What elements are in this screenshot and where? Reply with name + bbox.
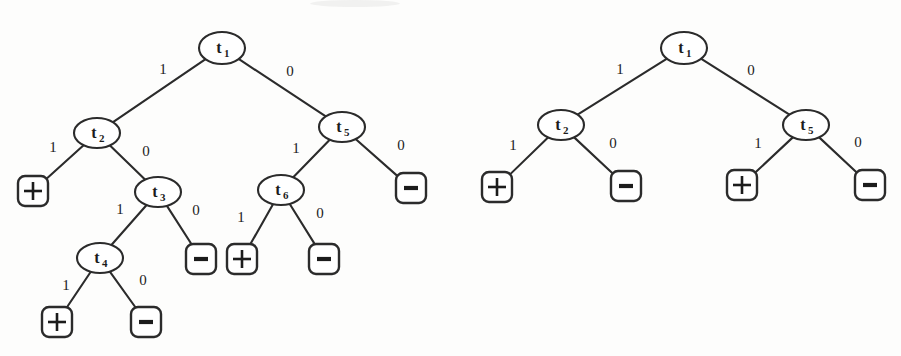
edge-label-1: 1 bbox=[159, 61, 167, 77]
node-subscript: 1 bbox=[686, 47, 692, 59]
node-label: t bbox=[275, 181, 281, 198]
edge-label-1: 1 bbox=[509, 137, 517, 153]
tree-node-t2[interactable]: t2 bbox=[538, 110, 584, 140]
node-label: t bbox=[800, 116, 806, 133]
node-subscript: 1 bbox=[224, 47, 230, 59]
node-label: t bbox=[216, 39, 222, 56]
left-tree: 101010101010t1t2t3t4t5t6 bbox=[18, 32, 426, 337]
edge-label-1: 1 bbox=[116, 201, 124, 217]
node-ellipse bbox=[74, 118, 120, 148]
node-ellipse bbox=[783, 110, 829, 140]
leaf-node-plus[interactable] bbox=[42, 307, 72, 337]
tree-edge bbox=[250, 204, 273, 245]
edge-label-0: 0 bbox=[192, 202, 200, 218]
tree-node-t1[interactable]: t1 bbox=[661, 32, 707, 64]
node-ellipse bbox=[199, 32, 245, 64]
node-ellipse bbox=[538, 110, 584, 140]
node-ellipse bbox=[77, 243, 123, 273]
leaf-node-plus[interactable] bbox=[227, 244, 257, 274]
figure-canvas: 101010101010t1t2t3t4t5t6101010t1t2t5 bbox=[0, 0, 901, 356]
tree-edge bbox=[236, 57, 328, 118]
node-subscript: 5 bbox=[344, 126, 350, 138]
edge-label-1: 1 bbox=[754, 135, 762, 151]
edge-label-1: 1 bbox=[237, 209, 245, 225]
edge-label-1: 1 bbox=[616, 61, 624, 77]
edge-label-1: 1 bbox=[62, 277, 70, 293]
tree-edge bbox=[109, 144, 147, 180]
decision-tree-figure: 101010101010t1t2t3t4t5t6101010t1t2t5 bbox=[0, 0, 901, 356]
node-label: t bbox=[91, 124, 97, 141]
leaf-node-plus[interactable] bbox=[18, 176, 48, 206]
node-ellipse bbox=[319, 112, 365, 142]
node-subscript: 2 bbox=[99, 132, 105, 144]
node-subscript: 2 bbox=[563, 124, 569, 136]
tree-edge bbox=[354, 138, 399, 178]
leaf-node-minus[interactable] bbox=[309, 244, 339, 274]
node-ellipse bbox=[258, 175, 304, 205]
edge-label-0: 0 bbox=[609, 135, 617, 151]
leaf-node-minus[interactable] bbox=[186, 244, 216, 274]
node-label: t bbox=[678, 39, 684, 56]
edge-label-0: 0 bbox=[397, 137, 405, 153]
tree-node-t5[interactable]: t5 bbox=[783, 110, 829, 140]
tree-edge bbox=[109, 271, 136, 309]
edge-label-0: 0 bbox=[139, 272, 147, 288]
edge-label-1: 1 bbox=[49, 139, 57, 155]
tree-edge bbox=[699, 57, 793, 116]
node-label: t bbox=[94, 249, 100, 266]
edge-label-0: 0 bbox=[747, 62, 755, 78]
leaf-node-minus[interactable] bbox=[131, 307, 161, 337]
node-ellipse bbox=[135, 177, 181, 207]
tree-node-t4[interactable]: t4 bbox=[77, 243, 123, 273]
tree-edge bbox=[167, 206, 193, 246]
tree-edge bbox=[290, 204, 316, 246]
node-ellipse bbox=[661, 32, 707, 64]
leaf-node-minus[interactable] bbox=[611, 171, 641, 201]
tree-node-t5[interactable]: t5 bbox=[319, 112, 365, 142]
tree-node-t3[interactable]: t3 bbox=[135, 177, 181, 207]
edge-label-0: 0 bbox=[854, 134, 862, 150]
node-label: t bbox=[336, 118, 342, 135]
node-subscript: 3 bbox=[160, 191, 166, 203]
tree-edge bbox=[573, 136, 614, 175]
edge-label-0: 0 bbox=[142, 143, 150, 159]
tree-edge bbox=[818, 136, 858, 174]
tree-node-t6[interactable]: t6 bbox=[258, 175, 304, 205]
node-label: t bbox=[555, 116, 561, 133]
tree-node-t1[interactable]: t1 bbox=[199, 32, 245, 64]
leaf-node-minus[interactable] bbox=[396, 173, 426, 203]
right-tree: 101010t1t2t5 bbox=[482, 32, 885, 202]
tree-node-t2[interactable]: t2 bbox=[74, 118, 120, 148]
edge-label-0: 0 bbox=[316, 205, 324, 221]
node-label: t bbox=[152, 183, 158, 200]
edge-label-1: 1 bbox=[292, 140, 300, 156]
node-subscript: 5 bbox=[808, 124, 814, 136]
node-subscript: 4 bbox=[102, 257, 108, 269]
edge-label-0: 0 bbox=[286, 63, 294, 79]
node-subscript: 6 bbox=[283, 189, 289, 201]
leaf-node-plus[interactable] bbox=[482, 172, 512, 202]
leaf-node-minus[interactable] bbox=[855, 170, 885, 200]
leaf-node-plus[interactable] bbox=[727, 170, 757, 200]
